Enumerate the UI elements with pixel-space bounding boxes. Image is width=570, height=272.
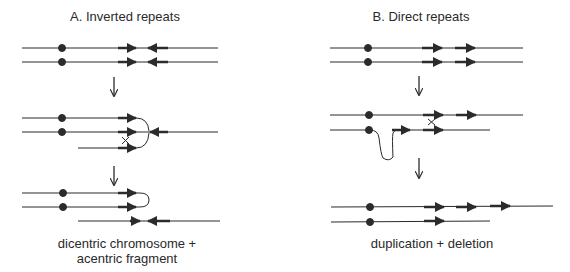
- recombination-diagram: [0, 0, 570, 272]
- centromere-icon: [59, 59, 66, 66]
- centromere-icon: [60, 190, 67, 197]
- panel-a-stage1: [22, 45, 218, 66]
- centromere-icon: [365, 59, 372, 66]
- panel-b-stage1: [330, 45, 523, 66]
- crossover-x-icon: [122, 137, 129, 144]
- panel-b-stage3: [331, 204, 553, 226]
- centromere-icon: [59, 115, 66, 122]
- panel-a-stage2: [22, 115, 218, 149]
- crossover-x-icon: [428, 119, 435, 125]
- centromere-icon: [366, 112, 373, 119]
- centromere-icon: [60, 204, 67, 211]
- centromere-icon: [367, 219, 374, 226]
- panel-a-stage3: [22, 190, 220, 222]
- panel-b-stage2: [330, 112, 523, 160]
- centromere-icon: [366, 127, 373, 134]
- centromere-icon: [59, 45, 66, 52]
- centromere-icon: [367, 204, 374, 211]
- centromere-icon: [365, 45, 372, 52]
- centromere-icon: [59, 129, 66, 136]
